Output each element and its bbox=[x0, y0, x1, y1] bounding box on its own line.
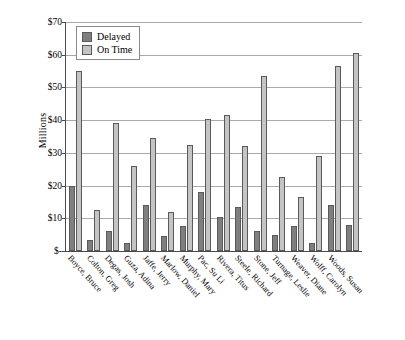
bar-group bbox=[233, 22, 252, 251]
bar-delayed bbox=[328, 205, 334, 251]
bar-on-time bbox=[261, 76, 267, 251]
bar-on-time bbox=[76, 71, 82, 251]
legend-label: Delayed bbox=[97, 30, 130, 43]
bar-group bbox=[288, 22, 307, 251]
y-axis-tick-label: $- bbox=[54, 246, 62, 256]
bar-group bbox=[325, 22, 344, 251]
bar-on-time bbox=[242, 146, 248, 251]
bar-group bbox=[214, 22, 233, 251]
x-axis-label-cell: Woods, Susan bbox=[325, 253, 344, 339]
bar-on-time bbox=[353, 53, 359, 251]
y-axis-tick-label: $30 bbox=[48, 148, 62, 158]
bar-delayed bbox=[87, 240, 93, 251]
bar-delayed bbox=[235, 207, 241, 251]
y-axis-tick-label: $20 bbox=[48, 181, 62, 191]
bar-group bbox=[344, 22, 363, 251]
x-axis-label-cell: Stone, Jeff bbox=[251, 253, 270, 339]
legend-item: On Time bbox=[82, 43, 132, 56]
y-axis-tick-mark bbox=[62, 251, 66, 252]
legend-swatch-icon bbox=[82, 32, 92, 42]
y-axis-tick-label: $70 bbox=[48, 17, 62, 27]
bar-group bbox=[140, 22, 159, 251]
bar-delayed bbox=[291, 226, 297, 251]
bar-delayed bbox=[180, 226, 186, 251]
x-axis-label-cell: Guza, Adina bbox=[121, 253, 140, 339]
bar-on-time bbox=[131, 166, 137, 251]
bar-on-time bbox=[168, 212, 174, 251]
x-axis-label-cell: Degas, Josh bbox=[102, 253, 121, 339]
bar-delayed bbox=[143, 205, 149, 251]
x-axis-label-cell: Steele, Richard bbox=[232, 253, 251, 339]
legend-item: Delayed bbox=[82, 30, 132, 43]
legend-label: On Time bbox=[97, 43, 132, 56]
bar-on-time bbox=[335, 66, 341, 251]
bar-group bbox=[251, 22, 270, 251]
bar-delayed bbox=[217, 217, 223, 251]
x-axis-label-cell: Wolff, Carolyn bbox=[306, 253, 325, 339]
bar-on-time bbox=[94, 210, 100, 251]
bar-group bbox=[196, 22, 215, 251]
bar-delayed bbox=[124, 243, 130, 251]
bar-delayed bbox=[161, 236, 167, 251]
y-axis-tick-label: $50 bbox=[48, 82, 62, 92]
bar-group bbox=[270, 22, 289, 251]
chart-legend: DelayedOn Time bbox=[76, 26, 140, 60]
x-axis-labels: Boyce, BruceColton, GregDegas, JoshGuza,… bbox=[65, 253, 362, 339]
bar-chart: Millions $-$10$20$30$40$50$60$70 Delayed… bbox=[0, 0, 405, 340]
bar-delayed bbox=[309, 243, 315, 251]
legend-swatch-icon bbox=[82, 45, 92, 55]
x-axis-label-cell: Marlow, Daniel bbox=[158, 253, 177, 339]
bar-on-time bbox=[279, 177, 285, 251]
bar-on-time bbox=[316, 156, 322, 251]
y-axis-title: Millions bbox=[37, 91, 48, 171]
bar-delayed bbox=[106, 231, 112, 251]
y-axis-tick-label: $60 bbox=[48, 50, 62, 60]
x-axis-label-cell: Weaver, Diane bbox=[288, 253, 307, 339]
bar-delayed bbox=[69, 186, 75, 251]
bar-on-time bbox=[205, 119, 211, 251]
x-axis-label-cell: Murphy, Mary bbox=[176, 253, 195, 339]
x-axis-label-cell: Rivera, Titus bbox=[214, 253, 233, 339]
bar-group bbox=[307, 22, 326, 251]
bar-on-time bbox=[298, 197, 304, 251]
x-axis-label-cell: Boyce, Bruce bbox=[65, 253, 84, 339]
x-axis-label-cell: Jaffe, Jerry bbox=[139, 253, 158, 339]
bar-delayed bbox=[346, 225, 352, 251]
x-axis-label-cell: Pac, Su Li bbox=[195, 253, 214, 339]
bar-on-time bbox=[224, 115, 230, 251]
x-axis-label-cell: Colton, Greg bbox=[84, 253, 103, 339]
bar-delayed bbox=[198, 192, 204, 251]
x-axis-label-cell bbox=[343, 253, 362, 339]
bar-on-time bbox=[187, 145, 193, 251]
bar-group bbox=[159, 22, 178, 251]
bar-on-time bbox=[150, 138, 156, 251]
bar-delayed bbox=[254, 231, 260, 251]
x-axis-label-cell: Turnage, Leslie bbox=[269, 253, 288, 339]
bar-on-time bbox=[113, 123, 119, 251]
bar-group bbox=[177, 22, 196, 251]
bar-delayed bbox=[272, 235, 278, 251]
y-axis-tick-label: $40 bbox=[48, 115, 62, 125]
y-axis-tick-label: $10 bbox=[48, 213, 62, 223]
